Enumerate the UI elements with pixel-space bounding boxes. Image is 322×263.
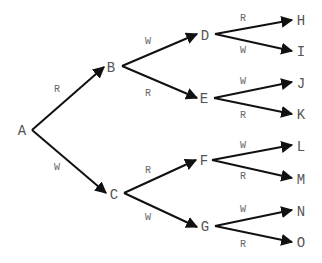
edge-label-c-g: W xyxy=(145,212,151,223)
node-o: O xyxy=(297,235,305,251)
edge-label-a-b: R xyxy=(54,84,60,95)
node-k: K xyxy=(297,107,306,123)
node-n: N xyxy=(297,204,305,220)
edge-f-l xyxy=(212,145,292,160)
edge-e-k xyxy=(214,98,292,114)
edge-b-d xyxy=(122,34,197,66)
node-h: H xyxy=(297,13,305,29)
node-m: M xyxy=(297,172,305,188)
edge-a-c xyxy=(32,130,106,193)
edges-layer xyxy=(32,20,292,242)
probability-tree-diagram: RWWRRWRWWRWRWR ABCDEFGHIJKLMNO xyxy=(0,0,322,263)
edge-g-o xyxy=(215,226,292,242)
edge-b-e xyxy=(122,66,197,98)
edge-f-m xyxy=(212,160,292,178)
edge-label-f-m: R xyxy=(240,171,246,182)
node-a: A xyxy=(18,123,27,139)
edge-label-d-h: R xyxy=(240,13,246,24)
node-d: D xyxy=(201,28,209,44)
edge-d-h xyxy=(215,20,292,34)
edge-label-g-n: W xyxy=(240,204,246,215)
edge-label-f-l: W xyxy=(240,140,246,151)
edge-g-n xyxy=(215,210,292,226)
node-c: C xyxy=(110,187,118,203)
edge-c-f xyxy=(124,160,196,193)
edge-d-i xyxy=(215,34,292,51)
node-b: B xyxy=(107,60,115,76)
node-j: J xyxy=(297,76,305,92)
edge-label-b-e: R xyxy=(145,88,151,99)
edge-labels-layer: RWWRRWRWWRWRWR xyxy=(54,13,246,250)
edge-e-j xyxy=(214,82,292,98)
node-g: G xyxy=(201,219,209,235)
edge-label-d-i: W xyxy=(240,45,246,56)
edge-label-e-j: W xyxy=(240,76,246,87)
edge-label-c-f: R xyxy=(145,165,151,176)
edge-label-g-o: R xyxy=(240,239,246,250)
edge-a-b xyxy=(32,67,104,130)
node-i: I xyxy=(297,44,305,60)
node-f: F xyxy=(200,153,208,169)
node-l: L xyxy=(297,139,305,155)
edge-c-g xyxy=(124,193,197,227)
edge-label-e-k: R xyxy=(240,110,246,121)
edge-label-b-d: W xyxy=(145,36,151,47)
edge-label-a-c: W xyxy=(54,162,60,173)
node-e: E xyxy=(200,91,208,107)
